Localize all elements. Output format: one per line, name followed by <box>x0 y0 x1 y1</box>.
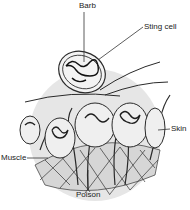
label-muscle: Muscle <box>1 154 26 162</box>
sting-cell-diagram <box>0 0 190 210</box>
label-sting-cell: Sting cell <box>144 23 176 31</box>
label-skin: Skin <box>171 125 187 133</box>
sting-cell-leader <box>98 27 143 60</box>
label-poison: Poison <box>76 191 100 199</box>
label-barb: Barb <box>79 2 96 10</box>
